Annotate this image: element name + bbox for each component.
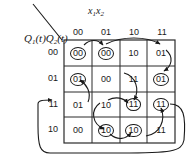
table-cell-r1c1: 00 — [92, 66, 120, 92]
cell-value: 00 — [70, 47, 86, 60]
cell-value: 11 — [153, 98, 168, 111]
column-header-3: 11 — [148, 28, 176, 37]
cell-value: 11 — [156, 125, 165, 135]
cell-value: 10 — [98, 124, 114, 137]
column-header-2: 10 — [120, 28, 148, 37]
row-header-2: 11 — [32, 100, 58, 109]
table-cell-r2c2: 11 — [120, 92, 147, 117]
cell-value: 11 — [129, 74, 138, 84]
cell-value: 10 — [128, 48, 138, 58]
cell-value: 00 — [101, 74, 111, 84]
table-cell-r0c0: 00 — [64, 40, 92, 66]
table-cell-r0c2: 10 — [120, 40, 147, 66]
cell-value: 00 — [73, 125, 83, 135]
row-header-0: 00 — [32, 48, 58, 57]
table-cell-r3c3: 11 — [147, 117, 175, 143]
column-header-0: 00 — [64, 28, 92, 37]
cell-value: 01 — [153, 73, 169, 86]
row-header-3: 10 — [32, 125, 58, 134]
table-cell-r0c3: 01 — [147, 40, 175, 66]
cell-value: 01 — [73, 100, 83, 110]
cell-value: 01 — [70, 73, 86, 86]
table-cell-r3c0: 00 — [64, 117, 92, 143]
input-axis-label: x1x2 — [88, 6, 104, 18]
table-cell-r3c2: 10 — [120, 117, 147, 143]
state-transition-diagram: Q1(t)Q2(t) x1x2 00 01 10 11 00 01 11 10 — [0, 0, 194, 162]
cell-value: 10 — [125, 124, 141, 137]
row-header-1: 01 — [32, 74, 58, 83]
cell-value: 11 — [126, 98, 141, 111]
state-axis-label: Q1(t)Q2(t) — [24, 33, 68, 46]
table-cell-r2c1: 10 — [92, 92, 120, 117]
table-cell-r2c0: 01 — [64, 92, 92, 117]
table-cell-r1c2: 11 — [120, 66, 147, 92]
cell-value: 01 — [156, 48, 166, 58]
cell-value: 00 — [98, 47, 114, 60]
table-cell-r0c1: 00 — [92, 40, 120, 66]
table-cell-r1c0: 01 — [64, 66, 92, 92]
table-cell-r3c1: 10 — [92, 117, 120, 143]
table-cell-r1c3: 01 — [147, 66, 175, 92]
column-header-1: 01 — [92, 28, 120, 37]
table-cell-r2c3: 11 — [147, 92, 175, 117]
cell-value: 10 — [101, 100, 111, 110]
